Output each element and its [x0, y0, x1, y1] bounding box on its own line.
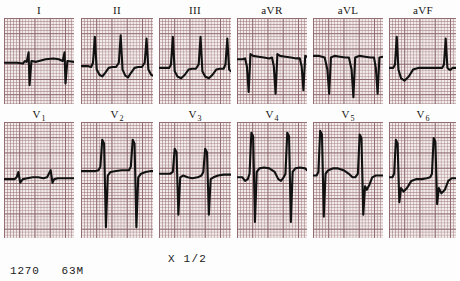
- lead-label-V3: V3: [156, 108, 234, 122]
- lead-label-V2: V2: [78, 108, 156, 122]
- ecg-trace-V6: [389, 138, 456, 204]
- lead-panel-I: I: [0, 4, 78, 104]
- lead-panel-II: II: [78, 4, 156, 104]
- lead-plot-III: [159, 18, 231, 104]
- scale-marker: X 1/2: [168, 253, 207, 265]
- lead-plot-V4: [237, 122, 307, 238]
- ecg-trace-V1: [4, 170, 74, 182]
- lead-panel-III: III: [156, 4, 234, 104]
- lead-panel-aVF: aVF: [386, 4, 460, 104]
- ecg-trace-V3: [159, 149, 231, 215]
- lead-label-V6: V6: [386, 108, 460, 122]
- lead-label-V1: V1: [0, 108, 78, 122]
- ecg-trace-II: [81, 35, 153, 77]
- lead-plot-V3: [159, 122, 231, 238]
- lead-panel-aVL: aVL: [310, 4, 386, 104]
- lead-label-V5: V5: [310, 108, 386, 122]
- lead-label-aVL: aVL: [310, 4, 386, 18]
- patient-age-sex: 63M: [62, 265, 84, 277]
- ecg-sheet: I II III aVR: [0, 0, 460, 281]
- lead-label-aVR: aVR: [234, 4, 310, 18]
- lead-plot-II: [81, 18, 153, 104]
- ecg-trace-aVR: [237, 54, 307, 94]
- lead-plot-aVR: [237, 18, 307, 104]
- lead-panel-V1: V1: [0, 108, 78, 240]
- ecg-trace-I: [4, 52, 74, 85]
- lead-plot-V5: [313, 122, 383, 238]
- lead-plot-V2: [81, 122, 153, 238]
- lead-panel-V6: V6: [386, 108, 460, 240]
- ecg-trace-aVF: [389, 37, 456, 81]
- lead-label-III: III: [156, 4, 234, 18]
- ecg-trace-V4: [237, 133, 307, 222]
- lead-plot-aVL: [313, 18, 383, 104]
- ecg-trace-aVL: [313, 56, 383, 97]
- lead-panel-V4: V4: [234, 108, 310, 240]
- lead-plot-V6: [389, 122, 456, 238]
- ecg-trace-III: [159, 37, 231, 78]
- ecg-trace-V2: [81, 140, 153, 227]
- lead-panel-V3: V3: [156, 108, 234, 240]
- patient-footer: 127063M: [10, 265, 84, 277]
- lead-plot-aVF: [389, 18, 456, 104]
- lead-panel-V5: V5: [310, 108, 386, 240]
- lead-plot-I: [4, 18, 74, 104]
- lead-label-II: II: [78, 4, 156, 18]
- lead-label-I: I: [0, 4, 78, 18]
- lead-row-limb: I II III aVR: [0, 4, 460, 104]
- lead-row-precordial: V1 V2 V3 V4: [0, 108, 460, 240]
- lead-panel-aVR: aVR: [234, 4, 310, 104]
- record-number: 1270: [10, 265, 40, 277]
- lead-panel-V2: V2: [78, 108, 156, 240]
- lead-label-V4: V4: [234, 108, 310, 122]
- ecg-trace-V5: [313, 131, 383, 217]
- lead-label-aVF: aVF: [386, 4, 460, 18]
- lead-plot-V1: [4, 122, 74, 238]
